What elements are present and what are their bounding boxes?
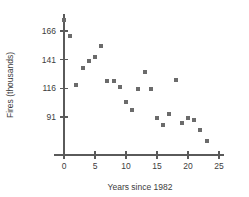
data-point [81, 66, 85, 70]
data-point [143, 70, 147, 74]
data-point [68, 34, 72, 38]
x-tick-label: 0 [62, 161, 67, 171]
data-point [87, 59, 91, 63]
y-tick-label: 166 [42, 26, 56, 36]
x-tick-label: 10 [121, 161, 131, 171]
data-point [198, 128, 202, 132]
data-point [124, 100, 128, 104]
chart-canvas: 911161411660510152025 Years since 1982 F… [0, 0, 249, 197]
data-point [93, 55, 97, 59]
data-point [149, 87, 153, 91]
data-point [136, 87, 140, 91]
y-tick-label: 91 [47, 112, 57, 122]
data-point [192, 118, 196, 122]
data-point [118, 85, 122, 89]
ticks-group [60, 31, 219, 159]
y-axis-title: Fires (thousands) [5, 52, 15, 118]
data-point [174, 78, 178, 82]
data-point [130, 108, 134, 112]
x-tick-label: 25 [214, 161, 224, 171]
x-tick-label: 5 [93, 161, 98, 171]
axes-group [54, 14, 224, 155]
scatter-plot-figure: 911161411660510152025 Years since 1982 F… [0, 0, 249, 197]
x-tick-label: 15 [152, 161, 162, 171]
data-markers-group [62, 18, 209, 144]
data-point [205, 139, 209, 143]
x-axis-title: Years since 1982 [108, 182, 173, 192]
data-point [74, 83, 78, 87]
data-point [112, 79, 116, 83]
data-point [167, 112, 171, 116]
data-point [161, 123, 165, 127]
data-point [62, 18, 66, 22]
y-tick-label: 116 [42, 83, 56, 93]
data-point [99, 44, 103, 48]
data-point [186, 116, 190, 120]
data-point [155, 116, 159, 120]
tick-labels-group: 911161411660510152025 [42, 26, 224, 171]
data-point [180, 121, 184, 125]
x-tick-label: 20 [183, 161, 193, 171]
data-point [105, 79, 109, 83]
y-tick-label: 141 [42, 55, 56, 65]
